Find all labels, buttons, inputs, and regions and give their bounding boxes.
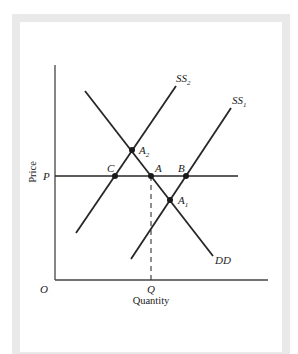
label-a: A	[154, 162, 162, 174]
label-ss2: SS2	[176, 72, 191, 87]
point-a	[148, 173, 154, 179]
label-c: C	[107, 162, 115, 174]
supply-curve-ss2	[76, 86, 176, 233]
x-axis-title: Quantity	[133, 295, 170, 306]
label-b: B	[178, 162, 185, 174]
label-ss1: SS1	[232, 94, 247, 109]
label-a1: A1	[177, 194, 188, 209]
point-a2	[129, 147, 135, 153]
label-p: P	[42, 170, 50, 182]
label-a2: A2	[138, 144, 150, 159]
y-axis-title: Price	[27, 161, 38, 183]
label-origin: O	[40, 283, 48, 295]
point-a1	[167, 197, 173, 203]
label-dd: DD	[214, 254, 231, 266]
label-q: Q	[147, 283, 155, 295]
